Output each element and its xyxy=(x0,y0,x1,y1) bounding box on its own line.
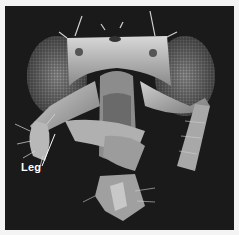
head-bristles xyxy=(59,11,177,39)
fly-head-illustration xyxy=(5,6,234,230)
leg-label: Leg xyxy=(21,161,41,173)
micrograph-frame: Leg xyxy=(5,6,234,230)
